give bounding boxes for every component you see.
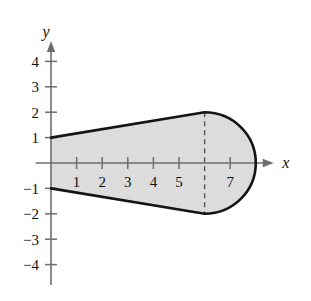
y-axis-label: y [40,23,50,41]
y-tick-label--1: −1 [23,181,39,197]
x-tick-label-4: 4 [150,174,158,190]
x-tick-label-5: 5 [175,174,183,190]
x-axis-label: x [281,154,289,171]
y-tick-label-3: 3 [32,79,40,95]
y-tick-label--3: −3 [23,232,39,248]
y-axis-arrowhead [47,41,55,52]
x-tick-label-2: 2 [98,174,106,190]
x-tick-label-3: 3 [124,174,132,190]
math-figure: 123457 4321−1−2−3−4 x y [0,0,311,301]
y-tick-label-4: 4 [32,54,40,70]
axes-group [36,41,274,285]
y-tick-label-1: 1 [32,130,40,146]
y-tick-label--4: −4 [23,257,39,273]
x-tick-label-7: 7 [226,174,234,190]
plot-canvas: 123457 4321−1−2−3−4 x y [0,0,311,301]
x-axis-arrowhead [263,159,274,167]
x-tick-label-1: 1 [73,174,81,190]
y-tick-label-2: 2 [32,105,40,121]
y-tick-label--2: −2 [23,206,39,222]
